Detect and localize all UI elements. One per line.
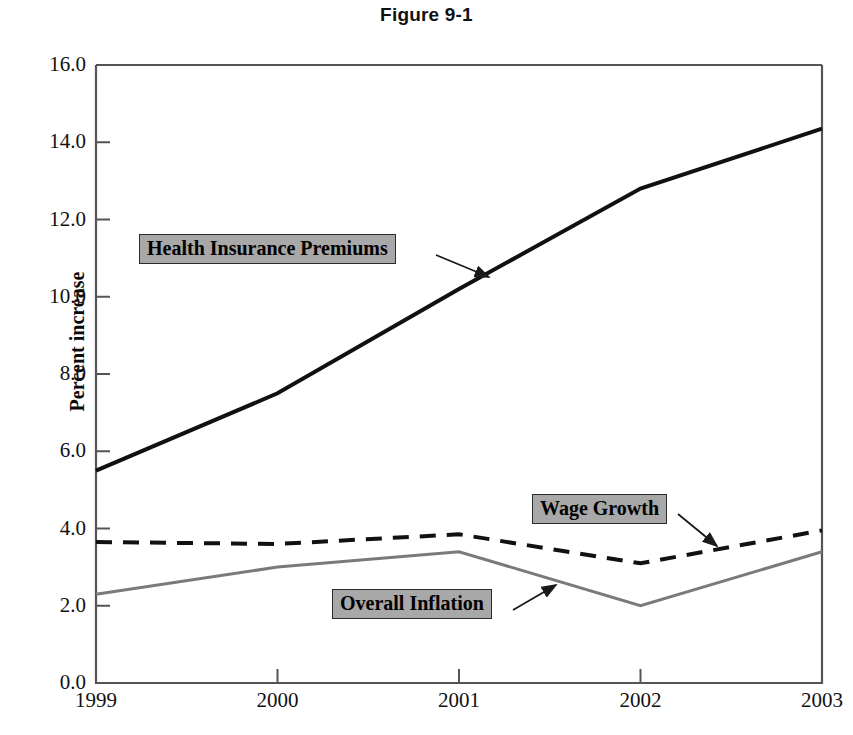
y-tick-label: 14.0 (26, 131, 86, 152)
arrow-health-insurance (436, 255, 489, 277)
y-tick-label: 4.0 (26, 518, 86, 539)
series-label-overall-inflation: Overall Inflation (332, 589, 492, 619)
arrow-overall-inflation (513, 585, 556, 610)
series-lines (96, 129, 822, 606)
y-tick-label: 16.0 (26, 54, 86, 75)
y-tick-label: 6.0 (26, 440, 86, 461)
y-tick-label: 2.0 (26, 595, 86, 616)
y-axis-title: Percent increase (66, 227, 89, 457)
x-tick-label: 2000 (218, 690, 338, 711)
arrow-wage-growth (678, 514, 717, 546)
series-label-health-insurance-premiums: Health Insurance Premiums (139, 234, 396, 264)
y-tick-label: 10.0 (26, 286, 86, 307)
x-tick-label: 2003 (762, 690, 853, 711)
y-tick-label: 12.0 (26, 209, 86, 230)
chart-canvas (0, 0, 853, 735)
line-chart: Percent increase 0.02.04.06.08.010.012.0… (0, 0, 853, 735)
series-line-health-insurance-premiums (96, 129, 822, 471)
x-tick-label: 2001 (399, 690, 519, 711)
x-tick-label: 2002 (581, 690, 701, 711)
series-label-wage-growth: Wage Growth (532, 494, 667, 524)
y-tick-label: 8.0 (26, 363, 86, 384)
y-axis-ticks (96, 142, 110, 606)
x-tick-label: 1999 (36, 690, 156, 711)
x-axis-ticks (278, 669, 641, 683)
series-line-wage-growth (96, 530, 822, 563)
